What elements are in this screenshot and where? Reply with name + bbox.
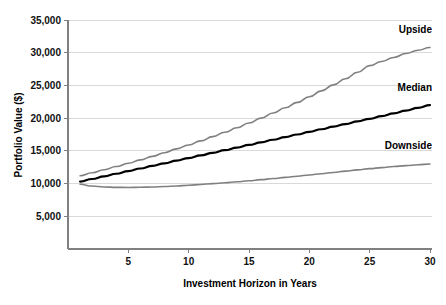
x-tick-label-25: 25 (364, 256, 376, 267)
y-tick-label-15000: 15,000 (30, 145, 61, 156)
line-chart: 5,00010,00015,00020,00025,00030,00035,00… (0, 0, 446, 305)
x-tick-label-30: 30 (424, 256, 436, 267)
y-tick-label-10000: 10,000 (30, 178, 61, 189)
y-axis-title: Portfolio Value ($) (13, 92, 24, 177)
series-label-median: Median (398, 82, 432, 93)
series-labels-group: UpsideMedianDownside (385, 24, 433, 151)
series-label-downside: Downside (385, 140, 433, 151)
series-line-upside (80, 47, 430, 175)
x-axis-title: Investment Horizon in Years (183, 278, 317, 289)
y-tick-label-25000: 25,000 (30, 80, 61, 91)
x-tick-label-10: 10 (183, 256, 195, 267)
y-tick-labels-group: 5,00010,00015,00020,00025,00030,00035,00… (30, 15, 61, 222)
x-tick-label-20: 20 (304, 256, 316, 267)
x-tick-labels-group: 51015202530 (126, 256, 436, 267)
axes-group (68, 20, 432, 249)
chart-container: 5,00010,00015,00020,00025,00030,00035,00… (0, 0, 446, 305)
series-label-upside: Upside (399, 24, 433, 35)
x-tick-marks-group (128, 249, 430, 253)
y-tick-label-35000: 35,000 (30, 15, 61, 26)
y-tick-label-20000: 20,000 (30, 113, 61, 124)
y-tick-label-30000: 30,000 (30, 47, 61, 58)
x-tick-label-15: 15 (243, 256, 255, 267)
x-tick-label-5: 5 (126, 256, 132, 267)
y-tick-label-5000: 5,000 (36, 211, 61, 222)
series-line-median (80, 105, 430, 182)
series-lines-group (80, 47, 430, 187)
